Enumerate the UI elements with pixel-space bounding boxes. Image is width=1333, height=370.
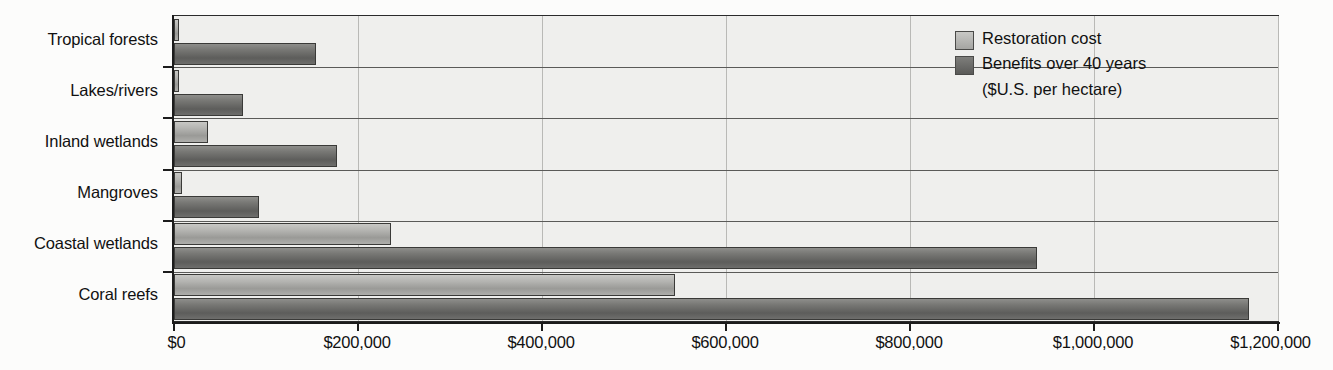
x-axis-tick-label: $0 [168, 333, 186, 352]
bar-restoration-cost [174, 172, 182, 194]
y-axis-tick [163, 271, 173, 273]
category-label: Lakes/rivers [70, 81, 158, 100]
bar-benefits [174, 145, 337, 167]
legend-label-restoration-cost: Restoration cost [982, 29, 1101, 48]
legend-label-benefits: Benefits over 40 years [982, 54, 1146, 73]
x-axis-tick-label: $1,000,000 [1053, 333, 1134, 352]
category-label: Tropical forests [47, 30, 158, 49]
bar-benefits [174, 196, 259, 218]
x-axis-tick [357, 322, 359, 331]
y-axis-tick [163, 169, 173, 171]
bar-benefits [174, 43, 316, 65]
legend-swatch-restoration-cost [955, 31, 974, 50]
category-label: Inland wetlands [45, 132, 158, 151]
gridline-x [726, 16, 727, 321]
category-label: Coastal wetlands [34, 234, 158, 253]
gridline-x [1278, 16, 1279, 321]
x-axis-tick [1093, 322, 1095, 331]
bar-restoration-cost [174, 121, 208, 143]
legend-units-note: ($U.S. per hectare) [982, 79, 1146, 99]
gridline-x [910, 16, 911, 321]
x-axis-tick [909, 322, 911, 331]
x-axis-tick-label: $800,000 [875, 333, 942, 352]
x-axis-tick [541, 322, 543, 331]
category-label: Mangroves [77, 183, 158, 202]
bar-restoration-cost [174, 274, 675, 296]
category-separator [174, 118, 1278, 119]
bar-benefits [174, 298, 1249, 320]
bar-benefits [174, 94, 243, 116]
y-axis-tick [163, 117, 173, 119]
legend-item-benefits: Benefits over 40 years [955, 54, 1146, 75]
category-separator [174, 170, 1278, 171]
x-axis-tick-label: $400,000 [507, 333, 574, 352]
chart-legend: Restoration cost Benefits over 40 years … [955, 29, 1146, 99]
x-axis-tick [725, 322, 727, 331]
x-axis-tick-label: $200,000 [323, 333, 390, 352]
bar-restoration-cost [174, 19, 179, 41]
x-axis-tick [173, 322, 175, 331]
bar-benefits [174, 247, 1037, 269]
category-separator [174, 272, 1278, 273]
y-axis-tick [163, 220, 173, 222]
bar-restoration-cost [174, 223, 391, 245]
legend-swatch-benefits [955, 56, 974, 75]
horizontal-bar-chart: Tropical forestsLakes/riversInland wetla… [0, 0, 1333, 370]
category-label: Coral reefs [78, 285, 158, 304]
x-axis-tick-label: $600,000 [691, 333, 758, 352]
y-axis-tick [163, 66, 173, 68]
category-separator [174, 221, 1278, 222]
legend-item-restoration-cost: Restoration cost [955, 29, 1146, 50]
bar-restoration-cost [174, 70, 179, 92]
x-axis-tick-label: $1,200,000 [1230, 333, 1311, 352]
x-axis-tick [1277, 322, 1279, 331]
